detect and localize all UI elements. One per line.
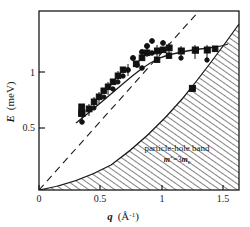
data-point xyxy=(120,67,125,72)
x-tick-label-0: 0 xyxy=(37,193,42,204)
data-point xyxy=(79,104,85,110)
y-tick-label-0: 0.5 xyxy=(23,122,36,133)
data-point xyxy=(166,53,171,58)
data-point xyxy=(86,106,92,112)
x-axis-title-symbol: q xyxy=(107,210,113,222)
data-point xyxy=(115,73,121,79)
y-axis-title: E(meV) xyxy=(4,81,17,123)
data-point xyxy=(102,95,106,99)
data-point xyxy=(150,39,155,44)
particle-hole-band-label: particle-hole band xyxy=(144,143,210,153)
data-point xyxy=(205,58,209,62)
data-point xyxy=(161,41,166,46)
data-point xyxy=(121,74,125,78)
data-point xyxy=(154,57,159,62)
svg-text:E(meV): E(meV) xyxy=(4,81,17,123)
data-point xyxy=(179,56,183,60)
data-point xyxy=(160,47,166,53)
effective-mass-label: m*=3me xyxy=(164,155,191,165)
x-tick-label-3: 1.5 xyxy=(217,193,230,204)
data-point xyxy=(133,61,139,67)
data-point xyxy=(96,94,102,100)
data-point xyxy=(116,80,120,84)
data-point xyxy=(140,66,145,71)
data-point xyxy=(212,46,218,52)
y-tick-label-1: 1 xyxy=(30,67,35,78)
data-point xyxy=(92,106,96,110)
svg-text:q(Å-1): q(Å-1) xyxy=(107,210,139,223)
data-point-isolated xyxy=(189,85,195,91)
chart-plot: 0 0.5 1 1.5 0.5 1 q(Å-1) E(meV) particle… xyxy=(0,0,250,227)
data-point xyxy=(80,120,85,125)
x-axis-title: q(Å-1) xyxy=(107,210,139,223)
data-point xyxy=(110,79,116,85)
data-point xyxy=(111,87,115,91)
x-tick-label-1: 0.5 xyxy=(94,193,107,204)
x-tick-label-2: 1 xyxy=(160,193,165,204)
y-axis-title-symbol: E xyxy=(4,115,16,123)
data-point xyxy=(131,56,136,61)
data-point xyxy=(150,51,155,56)
figure-container: 0 0.5 1 1.5 0.5 1 q(Å-1) E(meV) particle… xyxy=(0,0,250,227)
data-point xyxy=(79,110,85,116)
